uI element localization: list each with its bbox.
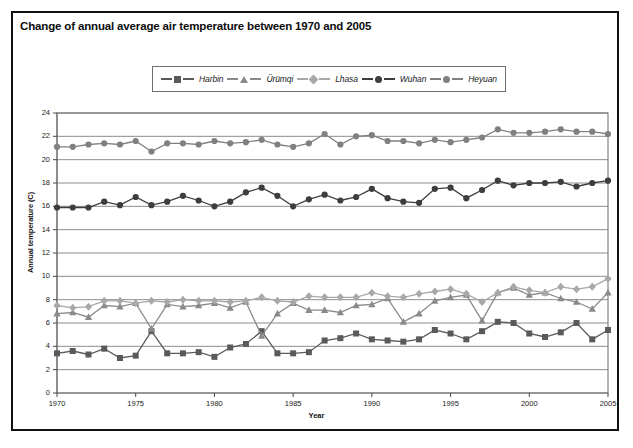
legend-item-harbin[interactable]: Harbin bbox=[161, 74, 223, 84]
legend-line-wuhan-2 bbox=[384, 78, 395, 80]
legend-line-wuhan bbox=[362, 78, 373, 80]
legend-line-lhasa-2 bbox=[319, 78, 330, 80]
legend-item-heyuan[interactable]: Heyuan bbox=[430, 74, 497, 84]
legend-line-urumqi bbox=[227, 78, 238, 80]
legend-line-heyuan-2 bbox=[452, 78, 463, 80]
legend-label-wuhan: Wuhan bbox=[400, 74, 426, 84]
legend-line-harbin bbox=[161, 78, 172, 80]
legend-line-urumqi-2 bbox=[250, 78, 261, 80]
legend-label-harbin: Harbin bbox=[199, 74, 223, 84]
triangle-marker-icon bbox=[240, 76, 248, 83]
legend-item-wuhan[interactable]: Wuhan bbox=[362, 74, 426, 84]
legend-label-lhasa: Lhasa bbox=[335, 74, 358, 84]
legend-label-urumqi: Ürümqi bbox=[266, 74, 293, 84]
circle-marker-icon bbox=[375, 76, 382, 83]
legend-item-lhasa[interactable]: Lhasa bbox=[297, 74, 358, 84]
screenshot-root: Change of annual average air temperature… bbox=[0, 0, 633, 448]
legend-line-heyuan bbox=[430, 78, 441, 80]
legend-item-urumqi[interactable]: Ürümqi bbox=[227, 74, 293, 84]
square-marker-icon bbox=[174, 76, 181, 83]
legend-label-heyuan: Heyuan bbox=[468, 74, 497, 84]
page-title: Change of annual average air temperature… bbox=[20, 20, 371, 32]
legend-line-harbin-2 bbox=[183, 78, 194, 80]
legend-line-lhasa bbox=[297, 78, 308, 80]
circle-marker-icon bbox=[443, 76, 450, 83]
chart-legend: Harbin Ürümqi Lhasa Wuhan Heyuan bbox=[152, 66, 506, 92]
diamond-marker-icon bbox=[309, 74, 319, 84]
